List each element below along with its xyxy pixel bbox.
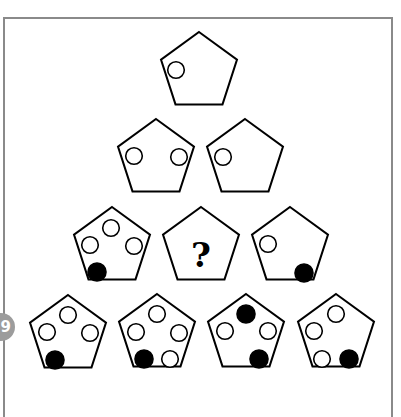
- pentagon-r3p1: [74, 207, 150, 281]
- hollow-circle-icon: [260, 323, 277, 340]
- filled-circle-icon: [237, 305, 255, 323]
- hollow-circle-icon: [60, 307, 77, 324]
- filled-circle-icon: [250, 350, 268, 368]
- hollow-circle-icon: [306, 323, 323, 340]
- pentagon-r4p3: [208, 294, 284, 368]
- filled-circle-icon: [46, 351, 64, 369]
- hollow-circle-icon: [149, 306, 166, 323]
- hollow-circle-icon: [39, 324, 56, 341]
- pentagon-r4p4: [298, 294, 374, 368]
- filled-circle-icon: [295, 264, 313, 282]
- filled-circle-icon: [340, 350, 358, 368]
- pentagon-r4p2: [119, 294, 195, 368]
- pentagon-r2p1: [118, 119, 194, 191]
- hollow-circle-icon: [217, 323, 234, 340]
- hollow-circle-icon: [168, 62, 185, 79]
- filled-circle-icon: [88, 263, 106, 281]
- hollow-circle-icon: [260, 236, 277, 253]
- pentagon-r1p1: [161, 32, 237, 104]
- hollow-circle-icon: [215, 149, 232, 166]
- hollow-circle-icon: [103, 220, 120, 237]
- hollow-circle-icon: [126, 238, 143, 255]
- pentagon-r3p3: [252, 207, 328, 282]
- pentagon-r3p2: ?: [163, 207, 239, 279]
- filled-circle-icon: [135, 350, 153, 368]
- hollow-circle-icon: [171, 149, 188, 166]
- hollow-circle-icon: [128, 324, 145, 341]
- hollow-circle-icon: [314, 351, 331, 368]
- hollow-circle-icon: [126, 148, 143, 165]
- pentagon-r2p2: [207, 119, 283, 191]
- pentagon-r4p1: [30, 295, 106, 369]
- question-mark: ?: [191, 235, 211, 275]
- hollow-circle-icon: [82, 237, 99, 254]
- hollow-circle-icon: [82, 325, 99, 342]
- hollow-circle-icon: [162, 351, 179, 368]
- hollow-circle-icon: [328, 306, 345, 323]
- hollow-circle-icon: [171, 325, 188, 342]
